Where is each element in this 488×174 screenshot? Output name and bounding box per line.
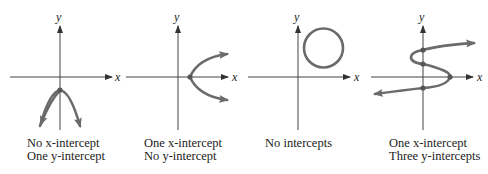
parabola-curve-upper xyxy=(190,54,227,77)
caption-line: No y-intercept xyxy=(144,150,222,163)
caption-panel-1: No x-intercept One y-intercept xyxy=(27,137,105,163)
s-curve-upper xyxy=(423,43,474,50)
panel-parabola-right: x y xyxy=(126,10,238,130)
x-axis-label: x xyxy=(114,70,121,84)
panel-circle: x y xyxy=(248,10,360,130)
panel-s-curve: x y xyxy=(371,10,483,130)
caption-line: Three y-intercepts xyxy=(389,150,480,163)
caption-panel-3: No intercepts xyxy=(265,137,332,150)
y-intercept-point xyxy=(420,61,425,66)
caption-line: One y-intercept xyxy=(27,150,105,163)
circle-curve xyxy=(304,29,343,68)
x-intercept-point xyxy=(187,74,192,79)
y-axis-label: y xyxy=(293,10,300,24)
y-intercept-point xyxy=(57,87,62,92)
s-curve-lower xyxy=(375,50,450,94)
caption-panel-4: One x-intercept Three y-intercepts xyxy=(389,137,480,163)
y-axis-label: y xyxy=(418,10,425,24)
y-axis-label: y xyxy=(173,10,180,24)
x-intercept-point xyxy=(447,74,452,79)
y-axis-label: y xyxy=(55,10,62,24)
caption-panel-2: One x-intercept No y-intercept xyxy=(144,137,222,163)
y-intercept-point xyxy=(420,85,425,90)
panel-parabola-down: x y xyxy=(10,10,121,130)
caption-line: No intercepts xyxy=(265,137,332,150)
parabola-curve-lower xyxy=(190,77,227,100)
x-axis-label: x xyxy=(476,70,483,84)
x-axis-label: x xyxy=(231,70,238,84)
x-axis-label: x xyxy=(353,70,360,84)
y-intercept-point xyxy=(420,47,425,52)
